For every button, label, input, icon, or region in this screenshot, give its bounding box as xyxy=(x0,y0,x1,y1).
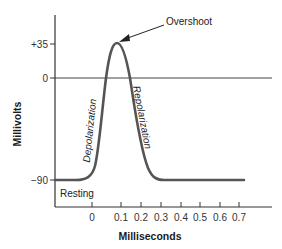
overshoot-label: Overshoot xyxy=(166,16,212,27)
overshoot-arrow xyxy=(119,25,164,42)
x-tick-label: 0.7 xyxy=(232,212,246,223)
action-potential-chart: +35 0 −90 0 0.1 0.2 0.3 0.4 0.5 0.6 0.7 … xyxy=(0,0,282,249)
x-tick-label: 0.6 xyxy=(213,212,227,223)
y-ticks xyxy=(50,44,55,180)
x-tick-label: 0.5 xyxy=(193,212,207,223)
y-tick-label: −90 xyxy=(31,175,48,186)
x-tick-label: 0 xyxy=(89,212,95,223)
x-tick-label: 0.1 xyxy=(114,212,128,223)
depolarization-label: Depolarization xyxy=(81,98,99,163)
x-tick-label: 0.2 xyxy=(134,212,148,223)
y-tick-label: 0 xyxy=(42,73,48,84)
repolarization-label: Repolarization xyxy=(131,85,154,150)
x-ticks xyxy=(92,202,239,207)
y-axis-title: Millivolts xyxy=(11,101,23,146)
x-tick-label: 0.4 xyxy=(174,212,188,223)
x-tick-label: 0.3 xyxy=(154,212,168,223)
x-axis-title: Milliseconds xyxy=(118,230,181,242)
y-tick-label: +35 xyxy=(31,39,48,50)
resting-label: Resting xyxy=(60,188,94,199)
